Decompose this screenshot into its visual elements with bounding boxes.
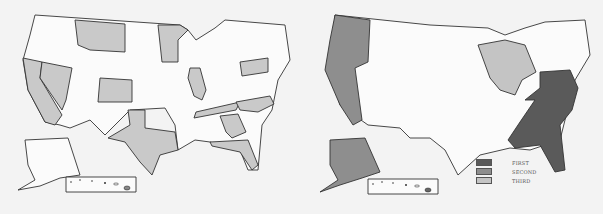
legend-swatch bbox=[476, 168, 492, 175]
right-us-map bbox=[320, 15, 590, 194]
legend-swatch bbox=[476, 159, 492, 166]
legend-label: FIRST bbox=[512, 160, 529, 166]
legend-swatch bbox=[476, 177, 492, 184]
legend-label: SECOND bbox=[512, 169, 537, 175]
legend-item-second: SECOND bbox=[476, 167, 537, 176]
legend: FIRST SECOND THIRD bbox=[476, 158, 537, 185]
legend-item-third: THIRD bbox=[476, 176, 537, 185]
legend-item-first: FIRST bbox=[476, 158, 537, 167]
legend-label: THIRD bbox=[512, 178, 530, 184]
left-us-map bbox=[18, 15, 290, 192]
